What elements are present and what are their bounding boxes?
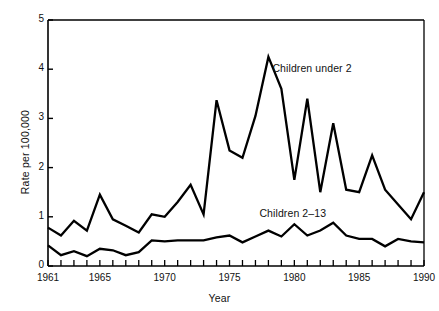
x-tick-label: 1980 <box>274 272 314 283</box>
x-axis-title: Year <box>208 292 230 304</box>
x-axis-title-wrapper: Year <box>0 288 439 306</box>
annotation-children-under-2: Children under 2 <box>272 62 351 74</box>
x-tick-label: 1990 <box>404 272 439 283</box>
line-chart: 012345 1961196519701975198019851990 Chil… <box>0 0 439 311</box>
x-axis-ticks <box>48 260 424 266</box>
x-tick-label: 1965 <box>80 272 120 283</box>
plot-area <box>0 0 439 311</box>
y-axis-title: Rate per 100,000 <box>19 110 31 194</box>
x-tick-label: 1985 <box>339 272 379 283</box>
x-tick-label: 1975 <box>210 272 250 283</box>
y-axis-title-wrapper: Rate per 100,000 <box>15 82 33 222</box>
x-tick-label: 1961 <box>28 272 68 283</box>
series-line <box>48 223 424 256</box>
data-series-group <box>48 57 424 256</box>
axis-lines <box>48 20 424 266</box>
y-tick-label: 4 <box>30 62 44 73</box>
y-tick-label: 0 <box>30 259 44 270</box>
series-line <box>48 57 424 236</box>
y-tick-label: 5 <box>30 13 44 24</box>
x-tick-label: 1970 <box>145 272 185 283</box>
annotation-children-2-13: Children 2–13 <box>259 207 326 219</box>
